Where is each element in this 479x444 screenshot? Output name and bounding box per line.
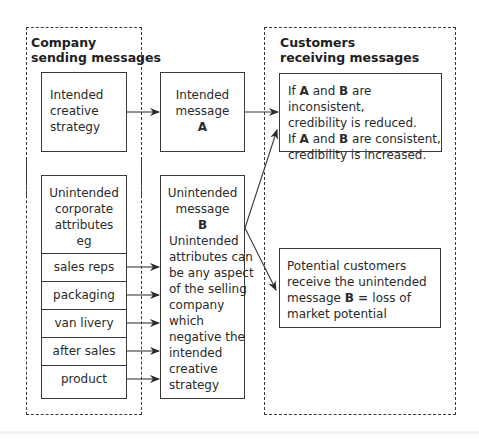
- text-line: receive the unintended: [287, 274, 440, 290]
- unintended-description: Unintended attributes can be any aspect …: [161, 233, 244, 393]
- message-letter-b: B: [161, 217, 244, 233]
- text-line: eg: [42, 233, 126, 249]
- text-line: message: [161, 201, 244, 217]
- text-line: which: [169, 313, 244, 329]
- text-line: attributes: [42, 217, 126, 233]
- text-line: negative the: [169, 329, 244, 345]
- potential-customers-box: Potential customers receive the unintend…: [279, 248, 441, 328]
- text-line: creative: [50, 103, 126, 119]
- scan-artifact-line: [0, 431, 479, 434]
- company-group-title: Company sending messages: [31, 35, 161, 65]
- text-line: Intended: [50, 87, 126, 103]
- text-line: If A and B are inconsistent,: [288, 83, 441, 115]
- customers-title-line2: receiving messages: [280, 50, 419, 65]
- text-line: intended: [169, 345, 244, 361]
- text-line: strategy: [169, 377, 244, 393]
- attribute-product: product: [42, 365, 126, 393]
- text-line: Potential customers: [287, 258, 440, 274]
- customers-group-title: Customers receiving messages: [280, 35, 419, 65]
- intended-message-box: Intended message A: [160, 72, 245, 152]
- attribute-after-sales: after sales: [42, 337, 126, 365]
- corporate-attributes-header: Unintended corporate attributes eg: [42, 176, 126, 249]
- text-line: If A and B are consistent,: [288, 131, 441, 147]
- unintended-message-box: Unintended message B Unintended attribut…: [160, 175, 245, 399]
- text-line: Unintended: [169, 233, 244, 249]
- text-line: attributes can: [169, 249, 244, 265]
- message-letter-a: A: [161, 119, 244, 135]
- attribute-packaging: packaging: [42, 281, 126, 309]
- credibility-box: If A and B are inconsistent, credibility…: [279, 73, 442, 152]
- text-line: credibility is increased.: [288, 147, 441, 163]
- creative-strategy-box: Intended creative strategy: [41, 72, 127, 152]
- attribute-sales-reps: sales reps: [42, 253, 126, 281]
- text-line: credibility is reduced.: [288, 115, 441, 131]
- text-line: message: [161, 103, 244, 119]
- text-line: Intended: [161, 87, 244, 103]
- text-line: message B = loss of: [287, 290, 440, 306]
- text-line: be any aspect: [169, 265, 244, 281]
- customers-title-line1: Customers: [280, 35, 419, 50]
- corporate-attributes-box: Unintended corporate attributes eg sales…: [41, 175, 127, 399]
- text-line: Unintended: [42, 185, 126, 201]
- text-line: of the selling: [169, 281, 244, 297]
- company-title-line1: Company: [31, 35, 161, 50]
- text-line: strategy: [50, 119, 126, 135]
- text-line: market potential: [287, 306, 440, 322]
- text-line: Unintended: [161, 185, 244, 201]
- text-line: creative: [169, 361, 244, 377]
- text-line: company: [169, 297, 244, 313]
- company-title-line2: sending messages: [31, 50, 161, 65]
- text-line: corporate: [42, 201, 126, 217]
- attribute-van-livery: van livery: [42, 309, 126, 337]
